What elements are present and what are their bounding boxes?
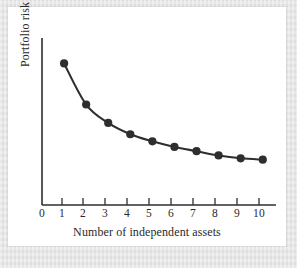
data-point-9 <box>237 154 245 162</box>
data-point-7 <box>192 147 200 155</box>
x-tick-label-0: 0 <box>31 207 53 220</box>
data-point-4 <box>126 130 134 138</box>
data-point-2 <box>82 100 90 108</box>
data-point-1 <box>60 59 68 67</box>
data-point-markers <box>60 59 267 163</box>
x-tick-label-2: 2 <box>72 207 94 220</box>
data-point-10 <box>259 156 267 164</box>
x-axis-title: Number of independent assets <box>8 225 286 240</box>
data-point-5 <box>148 137 156 145</box>
x-tick-label-6: 6 <box>160 207 182 220</box>
data-point-3 <box>104 119 112 127</box>
y-axis-title: Portfolio risk <box>18 0 33 67</box>
data-point-6 <box>170 143 178 151</box>
figure-page: 0 1 2 3 4 5 6 7 8 9 10 Number of indepen… <box>0 0 297 268</box>
x-tick-label-10: 10 <box>248 207 270 220</box>
data-point-8 <box>215 151 223 159</box>
chart-card: 0 1 2 3 4 5 6 7 8 9 10 Number of indepen… <box>8 7 286 246</box>
risk-curve <box>64 63 263 159</box>
x-axis-ticks <box>62 198 259 205</box>
x-tick-label-3: 3 <box>94 207 116 220</box>
x-tick-label-8: 8 <box>204 207 226 220</box>
x-tick-label-5: 5 <box>138 207 160 220</box>
x-tick-label-4: 4 <box>116 207 138 220</box>
x-tick-label-9: 9 <box>226 207 248 220</box>
x-tick-label-1: 1 <box>51 207 73 220</box>
x-tick-label-7: 7 <box>182 207 204 220</box>
